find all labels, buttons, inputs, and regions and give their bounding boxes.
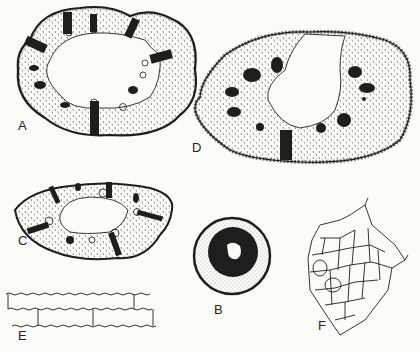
figure-a [18,7,196,135]
figure-c [15,182,172,259]
botanical-plate [0,0,420,352]
figure-label-e: E [18,328,27,343]
figure-label-c: C [18,233,27,248]
figure-e [6,293,156,327]
figure-label-b: B [214,302,223,317]
figure-d [195,32,411,163]
figure-b [194,218,270,294]
figure-label-a: A [18,118,27,133]
figure-label-d: D [192,140,201,155]
figure-label-f: F [318,318,326,333]
figure-f [308,198,408,335]
